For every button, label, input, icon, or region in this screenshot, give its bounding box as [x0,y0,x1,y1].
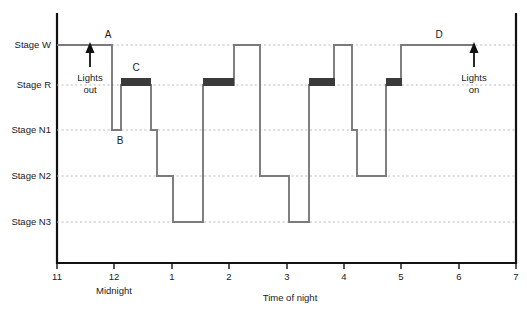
y-axis-labels: Stage W Stage R Stage N1 Stage N2 Stage … [11,39,51,227]
y-label-stage-r: Stage R [17,79,51,90]
x-label-6: 6 [456,271,461,282]
x-label-11: 11 [52,271,62,282]
x-label-4: 4 [341,271,346,282]
hypnogram-svg: Stage W Stage R Stage N1 Stage N2 Stage … [0,0,527,311]
x-label-12: 12 [109,271,120,282]
y-label-stage-n2: Stage N2 [11,170,51,181]
axis-frame [57,14,516,263]
rem-bar-2 [203,78,234,86]
annotation-label-c: C [132,62,139,73]
annotation-letters: A B C D [105,29,443,146]
lights-on-label-line2: on [469,84,480,95]
rem-bar-3 [309,78,335,86]
lights-out-label-line2: out [83,84,97,95]
sleep-stage-trace [57,45,474,222]
lights-out-annotation: Lights out [77,42,103,95]
lights-on-label-line1: Lights [461,72,487,83]
hypnogram-trace-path [57,45,474,222]
rem-bar-4 [386,78,402,86]
lights-on-arrow-head-icon [470,42,479,53]
x-label-7: 7 [513,271,518,282]
lights-out-label-line1: Lights [77,72,103,83]
x-label-5: 5 [398,271,403,282]
plot-axes [57,14,516,263]
hypnogram-figure: Stage W Stage R Stage N1 Stage N2 Stage … [0,0,527,311]
x-label-3: 3 [284,271,289,282]
lights-out-arrow-head-icon [86,42,95,53]
annotation-label-b: B [117,135,124,146]
rem-bar-1 [121,78,151,86]
x-sub-label-midnight: Midnight [96,285,132,296]
x-axis-title: Time of night [263,292,318,303]
stage-gridlines [57,45,516,222]
annotation-label-d: D [435,29,442,40]
x-axis-labels: 11 12 1 2 3 4 5 6 7 [52,271,519,282]
y-label-stage-n3: Stage N3 [11,216,51,227]
y-label-stage-w: Stage W [15,39,51,50]
y-label-stage-n1: Stage N1 [11,124,51,135]
x-label-1: 1 [169,271,174,282]
x-label-2: 2 [226,271,231,282]
annotation-label-a: A [105,29,112,40]
lights-on-annotation: Lights on [461,42,487,95]
